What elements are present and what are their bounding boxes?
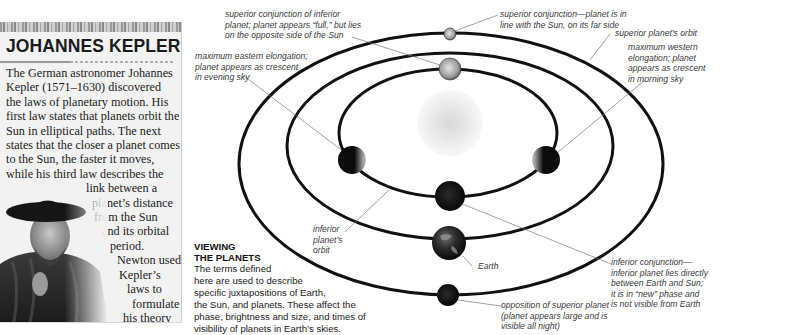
label-opposition: opposition of superior planet (planet ap… xyxy=(501,300,609,332)
label-line: in evening sky xyxy=(195,72,308,83)
label-line: inferior conjunction— xyxy=(611,257,708,268)
label-line: superior planet’s orbit xyxy=(615,28,697,39)
label-line: (planet appears large and is xyxy=(501,311,609,322)
label-line: planet; planet appears “full,” but lies xyxy=(225,20,361,31)
earth-icon xyxy=(432,226,466,260)
western-elongation-planet-icon xyxy=(532,146,560,174)
eastern-elongation-planet-icon xyxy=(338,146,366,174)
sun-icon xyxy=(417,90,483,156)
body-line: visibility of planets in Earth’s skies. xyxy=(194,323,394,335)
label-maximum-western-elongation: maximum western elongation; planet appea… xyxy=(628,42,705,84)
viewing-body-text: The terms defined here are used to descr… xyxy=(194,263,394,335)
opposition-planet-icon xyxy=(437,284,459,306)
viewing-title-line2: THE PLANETS xyxy=(194,252,394,263)
label-superior-conjunction-inferior: superior conjunction of inferior planet;… xyxy=(225,9,361,41)
label-line: Earth xyxy=(478,261,499,272)
label-line: between Earth and Sun; xyxy=(611,278,708,289)
label-line: is not visible from Earth xyxy=(611,299,708,310)
label-maximum-eastern-elongation: maximum eastern elongation; planet appea… xyxy=(195,51,308,83)
superior-conjunction-planet-icon xyxy=(444,28,456,40)
label-line: appears as crescent xyxy=(628,63,705,74)
viewing-the-planets-section: VIEWING THE PLANETS The terms defined he… xyxy=(194,241,394,335)
label-earth: Earth xyxy=(478,261,499,272)
body-line: here are used to describe xyxy=(194,275,394,287)
label-line: inferior planet lies directly xyxy=(611,268,708,279)
label-line: on the opposite side of the Sun xyxy=(225,30,361,41)
label-line: planet appears as crescent xyxy=(195,62,308,73)
inferior-conjunction-planet-icon xyxy=(435,181,465,211)
label-line: opposition of superior planet xyxy=(501,300,609,311)
label-line: superior conjunction—planet is in xyxy=(500,9,627,20)
body-line: specific juxtapositions of Earth, xyxy=(194,287,394,299)
body-line: phase, brightness and size, and times of xyxy=(194,311,394,323)
viewing-title-line1: VIEWING xyxy=(194,241,394,252)
inferior-superior-conjunction-planet-icon xyxy=(439,58,461,80)
body-line: The terms defined xyxy=(194,263,394,275)
label-inferior-conjunction: inferior conjunction— inferior planet li… xyxy=(611,257,708,310)
label-line: it is in “new” phase and xyxy=(611,289,708,300)
label-line: elongation; planet xyxy=(628,53,705,64)
label-line: superior conjunction of inferior xyxy=(225,9,361,20)
label-superior-planet-orbit: superior planet’s orbit xyxy=(615,28,697,39)
label-line: maximum eastern elongation; xyxy=(195,51,308,62)
label-superior-conjunction: superior conjunction—planet is in line w… xyxy=(500,9,627,30)
label-line: inferior xyxy=(313,224,342,235)
label-line: in morning sky xyxy=(628,74,705,85)
label-line: maximum western xyxy=(628,42,705,53)
body-line: the Sun, and planets. These affect the xyxy=(194,299,394,311)
label-line: line with the Sun, on its far side xyxy=(500,20,627,31)
label-line: visible all night) xyxy=(501,321,609,332)
